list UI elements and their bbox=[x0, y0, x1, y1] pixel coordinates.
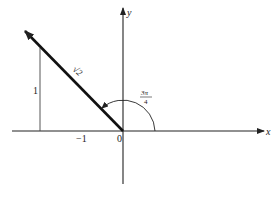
origin-label: 0 bbox=[117, 133, 122, 144]
angle-label: 3π 4 bbox=[140, 89, 152, 106]
x-tick-label: −1 bbox=[76, 133, 87, 144]
angle-label-numerator: 3π bbox=[140, 89, 149, 97]
angle-label-denominator: 4 bbox=[144, 98, 148, 106]
y-tick-label: 1 bbox=[33, 85, 38, 96]
vector-magnitude-label: √2 bbox=[71, 64, 85, 78]
x-axis-label: x bbox=[265, 126, 271, 137]
y-axis-label: y bbox=[126, 7, 132, 18]
cartesian-diagram: x y 0 −1 1 √2 3π 4 bbox=[0, 0, 277, 197]
